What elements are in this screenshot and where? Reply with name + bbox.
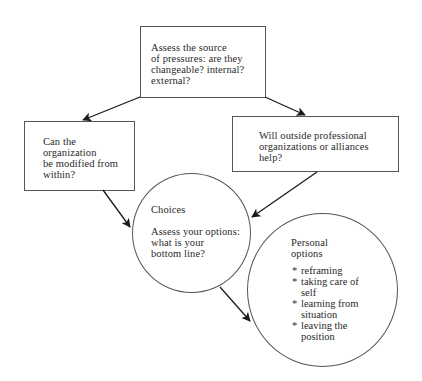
top-box-text: Assess the source of pressures: are they…: [151, 42, 244, 86]
choices-text: Assess your options: what is your bottom…: [151, 226, 240, 259]
right-box-text: Will outside professional organizations …: [259, 130, 369, 163]
arrow-top-to-left: [83, 97, 140, 120]
left-box-text: Can the organization be modified from wi…: [43, 136, 118, 180]
arrow-choices-to-personal: [220, 287, 250, 321]
personal-options-list: reframing taking care of self learning f…: [292, 265, 359, 342]
option-item: taking care of self: [292, 276, 359, 298]
arrow-right-to-choices: [252, 172, 317, 217]
arrow-top-to-right: [265, 97, 305, 115]
choices-title: Choices: [151, 204, 186, 215]
option-item: leaving the position: [292, 320, 359, 342]
personal-options-title: Personal options: [291, 237, 328, 259]
option-item: reframing: [292, 265, 359, 276]
option-item: learning from situation: [292, 298, 359, 320]
arrow-left-to-choices: [103, 190, 130, 227]
